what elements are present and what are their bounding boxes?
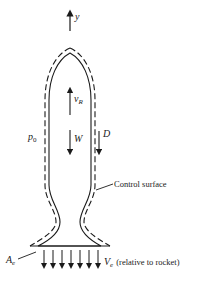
weight-label: W	[74, 133, 84, 144]
velocity-label: vR	[74, 93, 83, 106]
pressure-label: p0	[27, 131, 37, 144]
exit-velocity-label: Ve(relative to rocket)	[104, 256, 180, 269]
control-surface-label: Control surface	[114, 179, 167, 189]
drag-label: D	[102, 128, 111, 139]
exhaust-arrows	[44, 250, 98, 266]
exit-area-label: Ae	[5, 254, 15, 267]
rocket-diagram: y vR W D p0 Control surface Ae Ve(relati…	[0, 0, 203, 284]
y-axis-label: y	[74, 11, 80, 22]
exit-area-leader	[18, 252, 36, 259]
control-surface-leader	[96, 184, 113, 190]
